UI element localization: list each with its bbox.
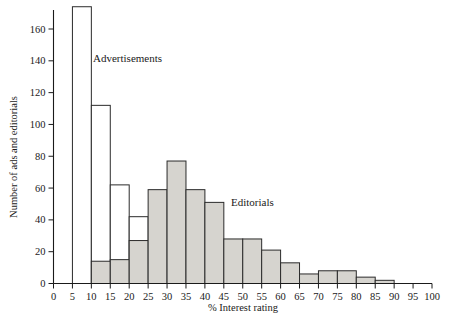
x-tick-label: 65 [294, 291, 305, 302]
x-axis-ticks: 0510152025303540455055606570758085909510… [51, 284, 440, 303]
y-tick-label: 100 [30, 119, 46, 130]
x-tick-label: 5 [70, 291, 75, 302]
editorials-annotation: Editorials [231, 196, 274, 208]
y-tick-label: 120 [30, 87, 46, 98]
chart-canvas: 020406080100120140160 051015202530354045… [0, 0, 452, 327]
editorials-bar [148, 190, 167, 284]
x-tick-label: 25 [143, 291, 154, 302]
x-tick-label: 35 [181, 291, 192, 302]
x-tick-label: 20 [124, 291, 135, 302]
y-tick-label: 60 [35, 183, 46, 194]
editorials-bar [91, 261, 110, 283]
editorials-bar [129, 241, 148, 284]
x-tick-label: 75 [332, 291, 343, 302]
x-tick-label: 90 [389, 291, 400, 302]
editorials-bar [205, 202, 224, 283]
y-tick-label: 0 [40, 278, 45, 289]
x-tick-label: 50 [238, 291, 249, 302]
x-tick-label: 95 [408, 291, 419, 302]
x-tick-label: 60 [275, 291, 286, 302]
x-tick-label: 15 [105, 291, 116, 302]
editorials-bar [300, 274, 319, 284]
editorials-bar [337, 271, 356, 284]
editorials-bar [356, 277, 375, 283]
x-tick-label: 40 [200, 291, 211, 302]
editorials-bar [186, 190, 205, 284]
advertisements-bar [72, 7, 91, 284]
x-tick-label: 85 [370, 291, 381, 302]
advertisements-bar [91, 105, 110, 283]
editorials-bar [262, 250, 281, 283]
editorials-bar [281, 263, 300, 284]
y-axis-ticks: 020406080100120140160 [30, 24, 54, 290]
x-tick-label: 30 [162, 291, 173, 302]
y-tick-label: 140 [30, 55, 46, 66]
x-tick-label: 70 [313, 291, 324, 302]
y-tick-label: 80 [35, 151, 46, 162]
x-tick-label: 10 [86, 291, 97, 302]
x-axis-title: % Interest rating [208, 302, 279, 313]
editorials-bar [318, 271, 337, 284]
y-axis-title: Number of ads and editorials [8, 96, 19, 218]
editorials-bar [167, 161, 186, 283]
editorials-bar [243, 239, 262, 284]
y-tick-label: 40 [35, 214, 46, 225]
advertisements-annotation: Advertisements [93, 52, 162, 64]
editorials-bar [224, 239, 243, 284]
y-tick-label: 20 [35, 246, 46, 257]
x-tick-label: 55 [256, 291, 267, 302]
x-tick-label: 100 [424, 291, 440, 302]
histogram-figure: 020406080100120140160 051015202530354045… [0, 0, 452, 327]
y-tick-label: 160 [30, 24, 46, 35]
x-tick-label: 0 [51, 291, 56, 302]
x-tick-label: 80 [351, 291, 362, 302]
editorials-bar [110, 260, 129, 284]
x-tick-label: 45 [219, 291, 230, 302]
